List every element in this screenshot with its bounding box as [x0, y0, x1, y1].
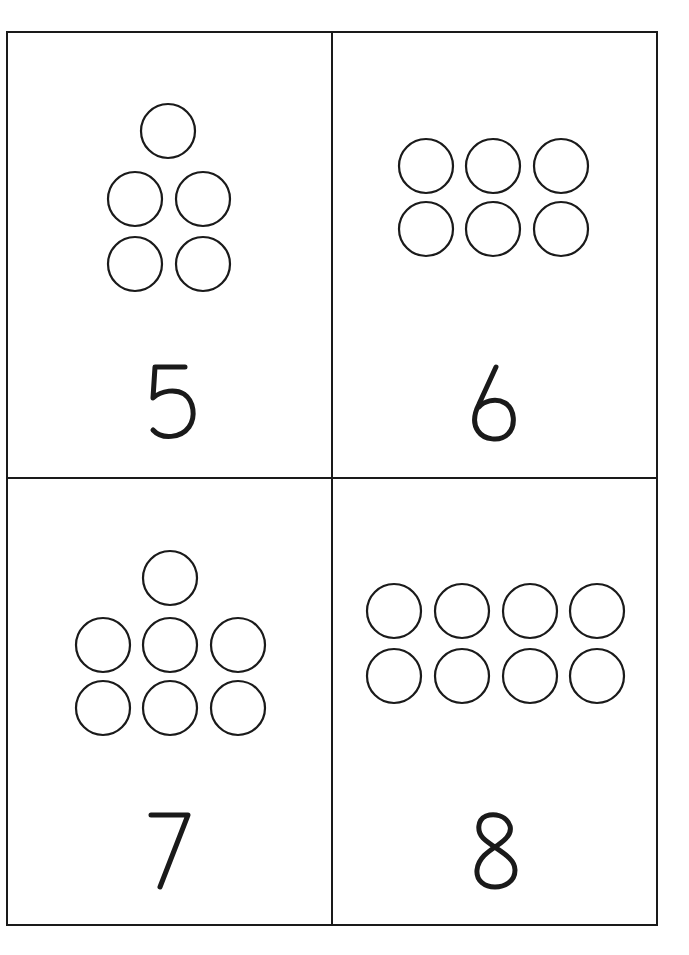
counting-circles-layer [76, 104, 624, 735]
counting-circle [399, 202, 453, 256]
counting-circle [108, 237, 162, 291]
numeral-5-glyph [153, 367, 193, 436]
counting-circle [143, 681, 197, 735]
numeral-6-glyph [475, 367, 514, 439]
counting-circle [503, 584, 557, 638]
counting-circle [466, 202, 520, 256]
number-cards-sheet [0, 0, 689, 955]
counting-circle [435, 649, 489, 703]
counting-circle [503, 649, 557, 703]
counting-circle [534, 139, 588, 193]
counting-circle [570, 649, 624, 703]
counting-circle [108, 172, 162, 226]
counting-circle [76, 618, 130, 672]
card-6-circles [399, 139, 588, 256]
counting-circle [143, 618, 197, 672]
card-grid-border [7, 32, 657, 925]
numeral-7-glyph [151, 815, 188, 887]
card-7-circles [76, 551, 265, 735]
counting-circle [176, 172, 230, 226]
counting-circle [399, 139, 453, 193]
counting-circle [570, 584, 624, 638]
counting-circle [367, 584, 421, 638]
counting-circle [76, 681, 130, 735]
counting-circle [176, 237, 230, 291]
counting-circle [367, 649, 421, 703]
counting-circle [143, 551, 197, 605]
counting-circle [466, 139, 520, 193]
card-5-circles [108, 104, 230, 291]
counting-circle [211, 681, 265, 735]
counting-circle [141, 104, 195, 158]
counting-circle [534, 202, 588, 256]
numeral-8-glyph [477, 815, 515, 887]
card-8-circles [367, 584, 624, 703]
counting-circle [211, 618, 265, 672]
counting-circle [435, 584, 489, 638]
